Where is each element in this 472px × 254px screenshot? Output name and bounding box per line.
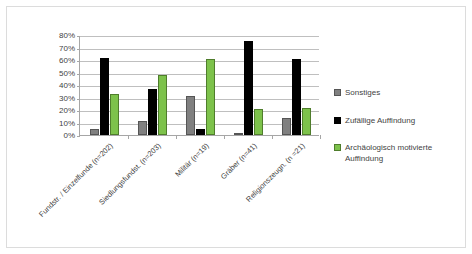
- y-axis-tick-mark: [77, 136, 80, 137]
- legend-label: Sonstiges: [345, 88, 380, 99]
- x-axis-category-label: Gräber (n=41): [219, 142, 258, 181]
- y-axis-tick-label: 40%: [59, 82, 75, 90]
- y-axis-tick-mark: [77, 124, 80, 125]
- legend-label: Zufällige Auffindung: [345, 116, 415, 127]
- legend-swatch-icon: [334, 117, 341, 124]
- legend-swatch-icon: [334, 89, 341, 96]
- y-axis-tick-label: 60%: [59, 57, 75, 65]
- bar-group: [234, 36, 263, 135]
- y-axis-tick-mark: [77, 99, 80, 100]
- legend-entry: Archäologisch motivierte Auffindung: [334, 143, 462, 164]
- bar: [138, 121, 147, 135]
- bar-group: [138, 36, 167, 135]
- chart-legend: SonstigesZufällige AuffindungArchäologis…: [334, 88, 462, 181]
- y-axis-tick-mark: [77, 111, 80, 112]
- legend-entry: Sonstiges: [334, 88, 462, 99]
- legend-entry: Zufällige Auffindung: [334, 116, 462, 127]
- bar: [196, 129, 205, 135]
- y-axis-tick-label: 0%: [63, 132, 75, 140]
- bar: [302, 108, 311, 136]
- bar: [254, 109, 263, 135]
- x-axis-tick-mark: [128, 135, 129, 139]
- y-axis-tick-label: 50%: [59, 70, 75, 78]
- bar: [292, 59, 301, 135]
- legend-swatch-icon: [334, 144, 341, 151]
- y-axis-tick-mark: [77, 86, 80, 87]
- bar: [244, 41, 253, 135]
- x-axis-category-label: Fundstr. / Einzelfunde (n=202): [38, 142, 115, 219]
- bar: [234, 133, 243, 136]
- x-axis-tick-mark: [320, 135, 321, 139]
- y-axis-tick-mark: [77, 61, 80, 62]
- bar-group: [186, 36, 215, 135]
- y-axis-tick-label: 80%: [59, 32, 75, 40]
- bar: [186, 96, 195, 135]
- bar: [100, 58, 109, 136]
- bar: [110, 94, 119, 135]
- y-axis-tick-mark: [77, 49, 80, 50]
- x-axis-tick-mark: [272, 135, 273, 139]
- y-axis-tick-label: 70%: [59, 45, 75, 53]
- bar: [206, 59, 215, 135]
- bar: [90, 129, 99, 135]
- y-axis-tick-label: 30%: [59, 95, 75, 103]
- plot-area: 0%10%20%30%40%50%60%70%80%: [79, 36, 319, 136]
- bar-group: [90, 36, 119, 135]
- bar: [158, 75, 167, 135]
- legend-label: Archäologisch motivierte Auffindung: [345, 143, 462, 164]
- x-axis-category-label: Militär (n=19): [174, 142, 210, 178]
- y-axis-tick-label: 20%: [59, 107, 75, 115]
- bar: [148, 89, 157, 135]
- x-axis-tick-mark: [224, 135, 225, 139]
- bar-group: [282, 36, 311, 135]
- x-axis-tick-mark: [176, 135, 177, 139]
- y-axis-tick-mark: [77, 36, 80, 37]
- chart-frame: 0%10%20%30%40%50%60%70%80% Fundstr. / Ei…: [6, 6, 466, 248]
- y-axis-tick-mark: [77, 74, 80, 75]
- bar: [282, 118, 291, 136]
- y-axis-tick-label: 10%: [59, 120, 75, 128]
